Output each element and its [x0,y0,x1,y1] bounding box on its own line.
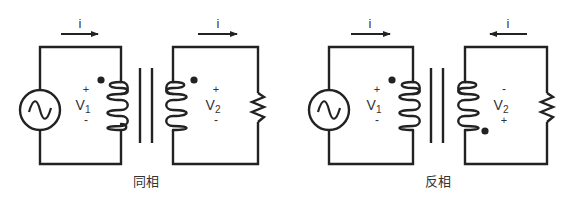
secondary-coil-icon [166,80,186,130]
anti-phase-diagram: + V1 - i - V2 + i 反相 [309,16,553,189]
resistor-icon [541,93,553,122]
secondary-polarity-bottom: + [501,114,507,126]
transformer-phase-diagram: + V1 - i + V2 - i [0,0,569,200]
ac-source-icon [20,90,60,130]
primary-current-label: i [79,16,82,31]
secondary-polarity-top: + [213,83,219,95]
secondary-current-label: i [507,16,510,31]
transformer-core [431,68,443,143]
primary-current-label: i [369,16,372,31]
secondary-coil-icon [458,80,478,130]
secondary-circuit: - V2 + i [458,16,553,164]
primary-circuit: + V1 - i [20,16,128,164]
in-phase-diagram: + V1 - i + V2 - i [20,16,264,189]
primary-coil-icon [108,80,128,130]
primary-circuit: + V1 - i [309,16,420,164]
polarity-dot [388,76,395,83]
secondary-polarity-bottom: - [214,113,218,127]
transformer-core [140,68,152,143]
in-phase-caption: 同相 [133,174,159,189]
resistor-icon [252,93,264,122]
secondary-polarity-top: - [502,82,506,96]
anti-phase-caption: 反相 [425,174,451,189]
polarity-dot [481,127,488,134]
primary-polarity-top: + [83,83,89,95]
secondary-voltage-label: V2 [494,97,509,115]
secondary-circuit: + V2 - i [166,16,264,164]
primary-polarity-bottom: - [84,113,88,127]
secondary-current-label: i [217,16,220,31]
primary-coil-icon [400,80,420,130]
polarity-dot [97,76,104,83]
primary-polarity-top: + [374,83,380,95]
primary-polarity-bottom: - [375,113,379,127]
polarity-dot [190,76,197,83]
ac-source-icon [309,90,349,130]
